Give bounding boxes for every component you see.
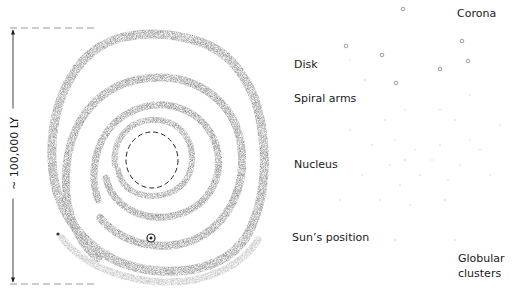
globular-clusters <box>344 7 470 85</box>
label-globular-clusters-line1: Globular <box>456 253 507 264</box>
label-disk: Disk <box>292 59 320 70</box>
corona-halo-dots <box>339 59 500 240</box>
diagram-canvas <box>0 0 526 294</box>
stray-star-dot <box>56 232 59 235</box>
label-sun-position: Sun’s position <box>290 232 371 243</box>
label-corona: Corona <box>455 8 498 19</box>
nucleus-dashed-circle <box>126 132 178 188</box>
spiral-arm-outer <box>52 34 264 271</box>
galaxy-diagram: ~ 100,000 LY Disk Spiral arms Nucleus Su… <box>0 0 526 294</box>
sun-marker-face-on <box>147 234 155 242</box>
spiral-galaxy-face-on <box>52 34 264 282</box>
spiral-arm-inner <box>115 120 192 196</box>
label-globular-clusters-line2: clusters <box>456 268 503 279</box>
label-nucleus: Nucleus <box>292 159 340 170</box>
label-spiral-arms: Spiral arms <box>292 93 358 104</box>
scale-label: ~ 100,000 LY <box>9 109 20 199</box>
